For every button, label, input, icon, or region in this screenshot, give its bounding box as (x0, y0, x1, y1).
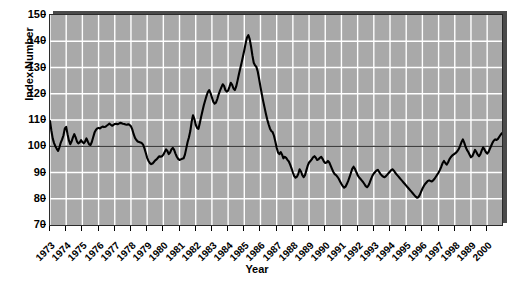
y-tick-mark (41, 224, 46, 225)
x-tick-mark (243, 226, 244, 231)
x-tick-mark (211, 226, 212, 231)
chart-canvas (50, 15, 502, 225)
x-tick-mark (340, 226, 341, 231)
x-tick-mark (438, 226, 439, 231)
y-tick-mark (41, 67, 46, 68)
x-tick-mark (357, 226, 358, 231)
y-tick-mark (41, 119, 46, 120)
x-tick-mark (308, 226, 309, 231)
x-tick-mark (486, 226, 487, 231)
x-tick-mark (405, 226, 406, 231)
chart-figure: Index Number 708090100110120130140150 19… (0, 0, 514, 283)
y-axis-ticks: 708090100110120130140150 (0, 0, 46, 283)
gridlines (50, 15, 502, 225)
x-tick-mark (454, 226, 455, 231)
y-tick-mark (41, 145, 46, 146)
x-tick-mark (179, 226, 180, 231)
x-tick-mark (65, 226, 66, 231)
x-tick-mark (227, 226, 228, 231)
x-tick-mark (195, 226, 196, 231)
y-tick-mark (41, 14, 46, 15)
x-tick-mark (130, 226, 131, 231)
y-tick-mark (41, 40, 46, 41)
x-tick-mark (81, 226, 82, 231)
x-tick-mark (162, 226, 163, 231)
x-tick-mark (292, 226, 293, 231)
x-tick-mark (389, 226, 390, 231)
x-tick-mark (259, 226, 260, 231)
x-tick-mark (276, 226, 277, 231)
y-tick-mark (41, 172, 46, 173)
x-tick-mark (470, 226, 471, 231)
x-axis-title: Year (0, 263, 514, 275)
x-tick-mark (114, 226, 115, 231)
x-tick-mark (98, 226, 99, 231)
y-tick-mark (41, 198, 46, 199)
x-tick-mark (146, 226, 147, 231)
y-tick-mark (41, 93, 46, 94)
x-axis-ticks (49, 226, 503, 232)
x-tick-mark (49, 226, 50, 231)
plot-area (49, 14, 503, 226)
x-tick-mark (421, 226, 422, 231)
x-tick-mark (373, 226, 374, 231)
x-tick-mark (324, 226, 325, 231)
